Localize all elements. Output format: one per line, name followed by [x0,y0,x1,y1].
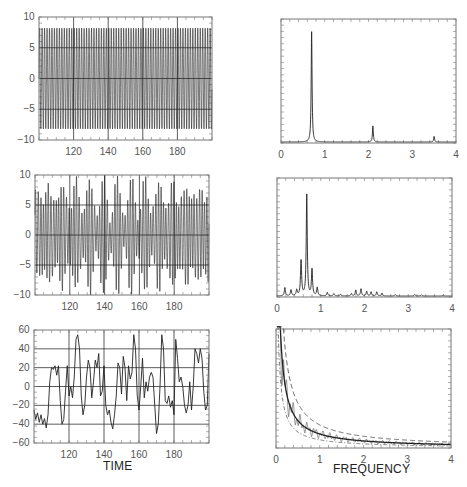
x-tick-label: 2 [366,150,372,160]
x-axis-title-time: TIME [103,459,132,473]
y-tick-label: 60 [18,325,29,335]
x-tick-label: 1 [322,150,328,160]
y-tick-label: 10 [19,170,30,180]
x-tick-label: 140 [96,302,113,312]
x-tick-label: 0 [273,455,279,465]
plot-spec3 [276,329,451,448]
y-tick-label: 20 [18,363,29,373]
x-tick-label: 160 [134,147,151,157]
plot-area [35,175,209,295]
x-tick-label: 160 [131,450,148,460]
x-tick-label: 120 [61,450,78,460]
plot-ts3 [34,330,209,443]
x-tick-label: 4 [449,304,455,314]
plot-ts1 [39,17,212,140]
plot-area [276,329,451,448]
y-tick-label: 0 [29,74,35,84]
x-tick-label: 120 [65,147,82,157]
y-tick-label: 5 [29,43,35,53]
x-tick-label: 1 [317,455,323,465]
y-tick-label: 0 [25,230,31,240]
x-tick-label: 1 [318,304,324,314]
y-tick-label: 10 [23,12,34,22]
y-tick-label: −10 [18,135,35,145]
plot-area [39,17,212,140]
y-tick-label: −5 [19,260,30,270]
y-tick-label: 0 [24,382,30,392]
plot-area [281,19,456,143]
y-tick-label: −10 [14,290,31,300]
x-tick-label: 3 [409,150,415,160]
x-tick-label: 0 [278,150,284,160]
x-axis-title-frequency: FREQUENCY [333,462,410,476]
x-tick-label: 3 [405,304,411,314]
plot-area [34,330,209,443]
y-tick-label: −40 [13,419,30,429]
x-tick-label: 140 [100,147,117,157]
x-tick-label: 0 [274,304,280,314]
x-tick-label: 2 [362,304,368,314]
x-tick-label: 180 [169,147,186,157]
plot-area [277,178,452,297]
plot-ts2 [35,175,209,295]
x-tick-label: 160 [131,302,148,312]
plot-spec1 [281,19,456,143]
x-tick-label: 120 [61,302,78,312]
y-tick-label: −60 [13,438,30,448]
plot-spec2 [277,178,452,297]
y-tick-label: −20 [13,400,30,410]
x-tick-label: 4 [448,455,454,465]
y-tick-label: −5 [23,104,34,114]
y-tick-label: 5 [25,200,31,210]
x-tick-label: 180 [166,450,183,460]
x-tick-label: 180 [166,302,183,312]
x-tick-label: 4 [453,150,459,160]
y-tick-label: 40 [18,344,29,354]
